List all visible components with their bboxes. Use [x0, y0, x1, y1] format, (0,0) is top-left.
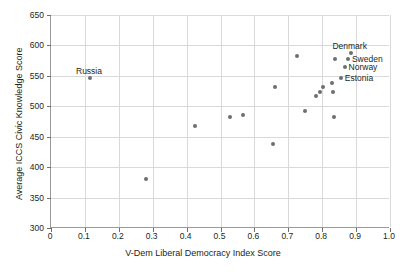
gridline-vertical — [187, 15, 188, 227]
data-point — [193, 124, 197, 128]
data-point — [271, 142, 275, 146]
y-axis-tick — [47, 228, 51, 229]
scatter-chart-figure: Average ICCS Civic Knowledge Score V-Dem… — [0, 0, 406, 273]
gridline-vertical — [153, 15, 154, 227]
data-point-label: Estonia — [345, 74, 373, 83]
gridline-horizontal — [51, 15, 389, 16]
y-axis-tick — [47, 137, 51, 138]
data-point — [332, 115, 336, 119]
data-point — [314, 94, 318, 98]
gridline-horizontal — [51, 167, 389, 168]
y-axis-tick-label: 350 — [18, 193, 44, 203]
gridline-vertical — [254, 15, 255, 227]
data-point-label: Sweden — [352, 55, 383, 64]
data-point-label: Russia — [76, 67, 102, 76]
x-axis-tick-label: 1.0 — [369, 231, 406, 241]
y-axis-tick-label: 550 — [18, 71, 44, 81]
data-point — [343, 65, 347, 69]
data-point — [339, 76, 343, 80]
y-axis-tick — [47, 15, 51, 16]
y-axis-tick-label: 400 — [18, 162, 44, 172]
data-point — [88, 76, 92, 80]
y-axis-tick-label: 500 — [18, 101, 44, 111]
data-point — [346, 57, 350, 61]
y-axis-tick — [47, 106, 51, 107]
y-axis-tick — [47, 167, 51, 168]
data-point — [318, 90, 322, 94]
y-axis-tick-label: 650 — [18, 10, 44, 20]
gridline-horizontal — [51, 137, 389, 138]
y-axis-tick-label: 600 — [18, 40, 44, 50]
data-point — [331, 90, 335, 94]
data-point — [241, 113, 245, 117]
gridline-vertical — [322, 15, 323, 227]
y-axis-tick-label: 450 — [18, 132, 44, 142]
data-point — [333, 57, 337, 61]
gridline-vertical — [390, 15, 391, 227]
gridline-vertical — [288, 15, 289, 227]
data-point — [144, 177, 148, 181]
y-axis-tick — [47, 198, 51, 199]
data-point — [330, 81, 334, 85]
gridline-vertical — [85, 15, 86, 227]
y-axis-tick — [47, 76, 51, 77]
data-point — [321, 85, 325, 89]
gridline-horizontal — [51, 106, 389, 107]
y-axis-tick-label: 300 — [18, 223, 44, 233]
data-point — [303, 109, 307, 113]
data-point — [295, 54, 299, 58]
gridline-horizontal — [51, 198, 389, 199]
x-axis-title: V-Dem Liberal Democracy Index Score — [0, 248, 406, 258]
gridline-vertical — [221, 15, 222, 227]
data-point-label: Denmark — [332, 42, 366, 51]
y-axis-tick — [47, 45, 51, 46]
data-point — [228, 115, 232, 119]
gridline-vertical — [119, 15, 120, 227]
data-point — [273, 85, 277, 89]
